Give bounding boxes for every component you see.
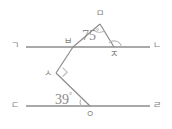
angle-39-degree-symbol: °: [69, 91, 72, 100]
angle-arc-jieut-icon: [109, 41, 122, 47]
angle-39-number: 39: [55, 92, 69, 107]
angle-label-75: 75°: [82, 28, 99, 43]
vertex-label-rieul: ㄹ: [153, 101, 161, 110]
vertex-label-bieup: ㅂ: [64, 37, 72, 46]
segment-mieum-jieut: [100, 24, 114, 47]
angle-label-39: 39°: [55, 92, 72, 107]
angle-75-degree-symbol: °: [96, 27, 99, 36]
vertex-label-digeut: ㄷ: [11, 101, 19, 110]
vertex-label-ieung: ㅇ: [86, 110, 94, 119]
vertex-label-jieut: ㅈ: [110, 50, 118, 59]
vertex-label-giyeok: ㄱ: [11, 41, 19, 50]
vertex-label-mieum: ㅁ: [96, 9, 104, 18]
geometry-figure: ㄱ ㄴ ㄷ ㄹ ㅁ ㅂ ㅅ ㅇ ㅈ 75° 39°: [0, 0, 172, 129]
angle-75-number: 75: [82, 28, 96, 43]
right-angle-marker-siot-icon: [63, 68, 68, 77]
angle-arc-ieung-icon: [80, 100, 81, 107]
vertex-label-nieun: ㄴ: [153, 41, 161, 50]
vertex-label-siot: ㅅ: [44, 69, 52, 78]
